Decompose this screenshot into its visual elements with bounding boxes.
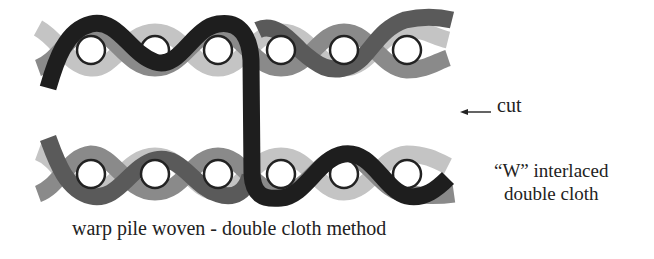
arrow-left-icon	[460, 108, 492, 116]
weft-circle	[330, 36, 358, 64]
weft-circle	[141, 160, 169, 188]
cut-label: cut	[497, 94, 521, 117]
interlace-label-line2: double cloth	[494, 182, 608, 205]
weft-circle	[77, 160, 105, 188]
weft-circle	[204, 160, 232, 188]
weft-circle	[393, 36, 421, 64]
interlaced-double-cloth-label: “W” interlaced double cloth	[494, 159, 608, 205]
weft-circle	[77, 36, 105, 64]
diagram-caption: warp pile woven - double cloth method	[72, 217, 386, 240]
weft-circle	[204, 36, 232, 64]
interlace-label-line1: “W” interlaced	[494, 159, 608, 182]
weft-circle	[267, 160, 295, 188]
weft-circle	[267, 36, 295, 64]
